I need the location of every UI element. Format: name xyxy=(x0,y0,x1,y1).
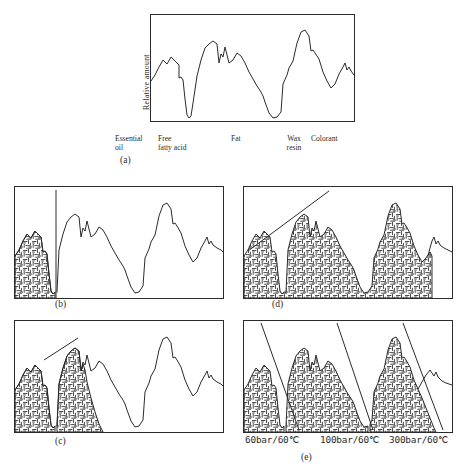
category-text-essential-oil: Essential oil xyxy=(115,134,142,153)
panel-a-ylabel: Relative amount xyxy=(142,54,151,110)
panel-label-c: (c) xyxy=(55,436,66,446)
figure-root: Relative amount Essential oil Free fatty… xyxy=(0,0,467,474)
panel-label-a: (a) xyxy=(120,155,131,165)
panel-b-extracted-region xyxy=(15,231,55,298)
panel-e xyxy=(243,320,453,433)
category-text-fat: Fat xyxy=(231,134,241,143)
panel-c-plot xyxy=(14,320,224,433)
category-text-colorant: Colorant xyxy=(311,134,338,143)
panel-e-extracted-zone-1 xyxy=(244,365,284,432)
panel-c xyxy=(14,320,224,433)
panel-d-plot xyxy=(243,186,453,299)
panel-label-e: (e) xyxy=(301,452,312,462)
panel-e-plot xyxy=(243,320,453,433)
category-label-colorant: Colorant xyxy=(311,124,359,143)
panel-b-plot xyxy=(14,186,224,299)
category-text-wax-resin: Wax resin xyxy=(287,134,302,153)
panel-e-extracted-zone-2 xyxy=(286,348,368,432)
panel-a: Relative amount xyxy=(150,14,355,122)
condition-label-60bar: 60bar/60℃ xyxy=(245,434,298,445)
panel-a-frame xyxy=(151,15,355,122)
panel-a-plot xyxy=(150,14,355,122)
condition-label-100bar: 100bar/60℃ xyxy=(320,434,379,445)
panel-e-trace-tail xyxy=(418,370,452,389)
category-label-free-fatty-acid: Free fatty acid xyxy=(158,124,208,153)
condition-label-300bar: 300bar/60℃ xyxy=(389,434,448,445)
panel-d-extracted-region xyxy=(244,203,432,298)
panel-label-b: (b) xyxy=(55,299,66,309)
panel-c-extracted-region-1 xyxy=(15,365,55,432)
panel-d xyxy=(243,186,453,299)
category-label-fat: Fat xyxy=(231,124,261,143)
panel-b xyxy=(14,186,224,299)
panel-d-trace-tail xyxy=(428,237,452,256)
category-label-essential-oil: Essential oil xyxy=(115,124,159,153)
panel-a-trace xyxy=(151,30,354,118)
panel-label-d: (d) xyxy=(272,299,283,309)
category-text-free-fatty-acid: Free fatty acid xyxy=(158,134,186,153)
category-label-wax-resin: Wax resin xyxy=(277,124,311,153)
